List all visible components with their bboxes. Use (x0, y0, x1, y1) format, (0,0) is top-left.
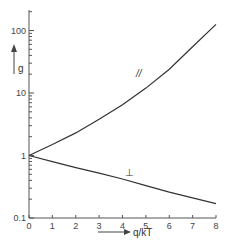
chart: 0123456780.1110100//⊥gq/kT (0, 0, 229, 246)
perpendicular-label: ⊥ (125, 167, 134, 178)
up-arrow-icon (11, 44, 17, 52)
x-tick-label: 0 (26, 221, 31, 231)
x-axis-label: q/kT (133, 227, 152, 238)
right-arrow-icon (124, 229, 131, 235)
series-line-parallel (29, 24, 216, 155)
x-tick-label: 3 (97, 221, 102, 231)
x-tick-label: 2 (73, 221, 78, 231)
y-tick-label: 1 (21, 151, 26, 161)
x-tick-label: 1 (50, 221, 55, 231)
parallel-label: // (135, 68, 143, 79)
x-tick-label: 6 (167, 221, 172, 231)
y-tick-label: 100 (11, 26, 26, 36)
x-tick-label: 8 (213, 221, 218, 231)
x-tick-label: 7 (190, 221, 195, 231)
y-axis-label: g (18, 63, 24, 74)
y-tick-label: 0.1 (13, 213, 26, 223)
series-line-perpendicular (29, 156, 216, 204)
y-tick-label: 10 (16, 88, 26, 98)
